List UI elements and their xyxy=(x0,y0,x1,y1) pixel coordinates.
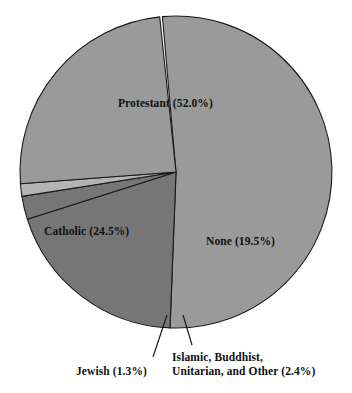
callout-label-jewish: Jewish (1.3%) xyxy=(76,364,147,378)
slice-label-catholic: Catholic (24.5%) xyxy=(44,224,129,238)
pie-slice-group xyxy=(20,16,332,328)
callout-label-other-line1: Islamic, Buddhist, xyxy=(172,351,263,363)
callout-label-other: Islamic, Buddhist, Unitarian, and Other … xyxy=(172,350,315,379)
slice-label-none: None (19.5%) xyxy=(206,234,275,248)
pie-slice-protestant[interactable] xyxy=(162,16,332,328)
pie-chart: Protestant (52.0%) Catholic (24.5%) None… xyxy=(0,0,352,393)
callout-label-other-line2: Unitarian, and Other (2.4%) xyxy=(172,364,315,378)
slice-label-protestant: Protestant (52.0%) xyxy=(118,96,213,110)
pie-chart-canvas xyxy=(0,0,352,393)
